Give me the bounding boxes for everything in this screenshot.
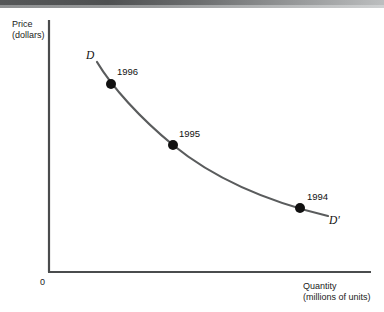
data-point-marker-1994 [295,203,305,213]
demand-curve-start-label: D [86,49,94,61]
y-axis-caption: Price (dollars) [12,19,45,41]
origin-label: 0 [40,277,45,287]
data-point-marker-1995 [168,140,178,150]
data-point-marker-1996 [106,79,116,89]
demand-curve-end-label: D' [329,214,340,226]
chart-plot-area [0,0,384,312]
x-axis-unit: (millions of units) [303,292,371,303]
demand-curve-figure: Price (dollars) Quantity (millions of un… [0,0,384,312]
y-axis-label: Price [12,19,45,30]
y-axis-unit: (dollars) [12,30,45,41]
data-point-label-1994: 1994 [307,191,328,202]
data-point-label-1996: 1996 [117,66,138,77]
data-point-label-1995: 1995 [179,128,200,139]
x-axis-label: Quantity [303,281,371,292]
x-axis-caption: Quantity (millions of units) [303,281,371,303]
demand-curve-path [97,62,328,216]
